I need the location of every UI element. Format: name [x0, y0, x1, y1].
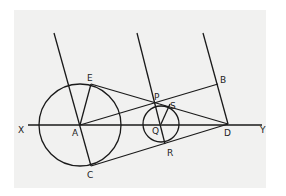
tangent-ed [91, 84, 228, 124]
label-b: B [220, 75, 226, 85]
geometry-diagram: X Y A B C D E P Q R S [0, 0, 286, 196]
line-through-a [54, 33, 91, 166]
line-through-p [137, 33, 165, 144]
label-d: D [224, 128, 231, 138]
label-c: C [87, 170, 93, 180]
label-r: R [167, 148, 173, 158]
label-p: P [154, 92, 160, 102]
label-a: A [72, 128, 79, 138]
label-q: Q [152, 126, 159, 136]
label-s: S [170, 101, 176, 111]
tangent-cd [91, 124, 228, 166]
label-y: Y [259, 125, 266, 135]
label-e: E [87, 73, 93, 83]
label-x: X [18, 125, 24, 135]
segment-ae [80, 84, 91, 125]
